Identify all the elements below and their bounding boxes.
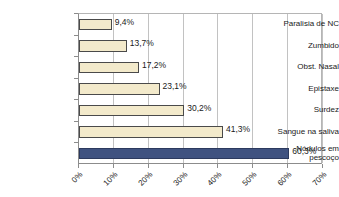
y-tick-mark	[74, 35, 78, 36]
x-tick-mark	[148, 164, 149, 168]
category-label: Sangue na saliva	[263, 127, 339, 136]
x-tick-mark	[78, 164, 79, 168]
bar	[79, 62, 139, 73]
x-tick-mark	[252, 164, 253, 168]
bar-value-label: 23,1%	[163, 81, 187, 92]
bar-value-label: 30,2%	[187, 103, 211, 114]
x-tick-label: 40%	[189, 170, 224, 197]
bar	[79, 126, 223, 137]
y-tick-mark	[74, 121, 78, 122]
x-tick-label: 10%	[85, 170, 120, 197]
x-tick-label: 60%	[259, 170, 294, 197]
x-tick-label: 70%	[294, 170, 329, 197]
category-label: Nódulos em pescoço	[263, 144, 339, 163]
y-tick-mark	[74, 13, 78, 14]
x-tick-mark	[287, 164, 288, 168]
x-tick-label: 0%	[50, 170, 85, 197]
x-tick-label: 50%	[224, 170, 259, 197]
x-tick-label: 30%	[154, 170, 189, 197]
category-label: Surdez	[263, 105, 339, 114]
category-label: Paralisia de NC	[263, 19, 339, 28]
bar	[79, 105, 184, 116]
x-tick-mark	[113, 164, 114, 168]
y-tick-mark	[74, 99, 78, 100]
bar-value-label: 41,3%	[226, 124, 250, 135]
y-tick-mark	[74, 56, 78, 57]
x-tick-label: 20%	[119, 170, 154, 197]
y-tick-mark	[74, 142, 78, 143]
bar	[79, 148, 289, 159]
category-label: Obst. Nasal	[263, 62, 339, 71]
category-label: Epistaxe	[263, 84, 339, 93]
x-tick-mark	[217, 164, 218, 168]
bar	[79, 83, 160, 94]
bar-chart: 9,4%13,7%17,2%23,1%30,2%41,3%60,3% Paral…	[0, 0, 339, 197]
bar	[79, 19, 112, 30]
bar-value-label: 13,7%	[130, 38, 154, 49]
bar-value-label: 9,4%	[115, 17, 134, 28]
bar-value-label: 17,2%	[142, 60, 166, 71]
x-tick-mark	[322, 164, 323, 168]
bar	[79, 40, 127, 51]
y-tick-mark	[74, 78, 78, 79]
category-label: Zumbido	[263, 41, 339, 50]
x-tick-mark	[183, 164, 184, 168]
